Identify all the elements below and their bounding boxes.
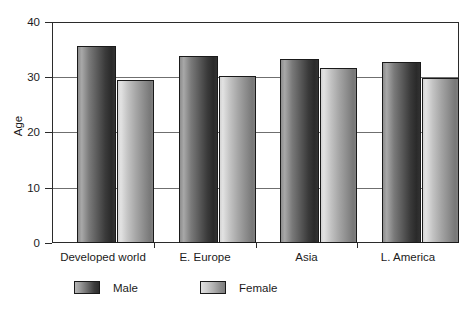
y-tick-mark-10 <box>45 188 52 189</box>
x-tick-mark-2 <box>256 243 257 248</box>
x-label-developed-world: Developed world <box>52 251 154 263</box>
bar-female-e-europe <box>219 76 256 243</box>
bar-female-developed-world <box>117 80 154 243</box>
bar-male-asia <box>280 59 319 243</box>
legend-label-male: Male <box>113 282 138 294</box>
bar-male-l-america <box>382 62 421 243</box>
legend-item-female: Female <box>200 281 277 294</box>
y-axis: 40 30 20 10 0 Age <box>0 0 52 317</box>
bar-male-e-europe <box>179 56 218 243</box>
legend-label-female: Female <box>239 282 277 294</box>
y-tick-mark-0 <box>45 243 52 244</box>
y-tick-mark-40 <box>45 22 52 23</box>
x-tick-mark-3 <box>357 243 358 248</box>
bar-male-developed-world <box>77 46 116 243</box>
y-tick-mark-20 <box>45 132 52 133</box>
x-label-e-europe: E. Europe <box>154 251 256 263</box>
legend-swatch-female-icon <box>200 281 226 294</box>
x-label-l-america: L. America <box>357 251 459 263</box>
y-tick-mark-30 <box>45 77 52 78</box>
bar-female-asia <box>320 68 357 243</box>
y-axis-title: Age <box>12 96 24 156</box>
x-tick-mark-1 <box>154 243 155 248</box>
legend-item-male: Male <box>74 281 138 294</box>
bars-layer <box>52 22 459 243</box>
legend-swatch-male-icon <box>74 281 100 294</box>
x-label-asia: Asia <box>256 251 357 263</box>
chart-legend: Male Female <box>0 281 476 303</box>
bar-female-l-america <box>422 78 459 243</box>
bar-chart: 40 30 20 10 0 Age <box>0 0 476 317</box>
